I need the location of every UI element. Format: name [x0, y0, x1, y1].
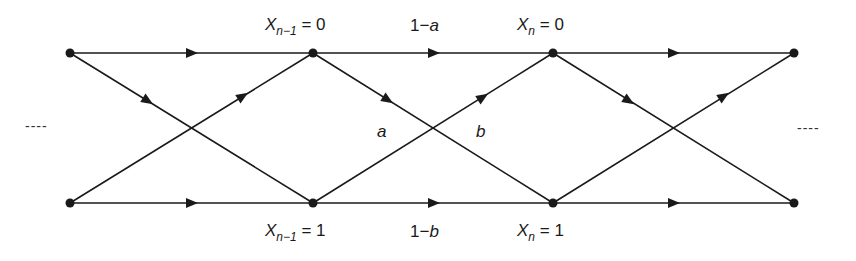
- arrow-icon: [140, 94, 155, 109]
- state-sub: n−1: [276, 24, 296, 38]
- node-top-2: [549, 49, 558, 58]
- state-eq: = 0: [297, 15, 326, 34]
- arrow-icon: [668, 198, 680, 208]
- state-label-prev-bottom: Xn−1 = 1: [265, 222, 326, 239]
- edge-label-var: b: [429, 222, 438, 241]
- arrow-icon: [475, 90, 490, 105]
- edge-label-var: a: [377, 122, 386, 141]
- continuation-left: ----: [25, 119, 48, 133]
- state-var: X: [517, 221, 528, 240]
- arrow-icon: [428, 48, 440, 58]
- edge-label-var: a: [429, 16, 438, 35]
- edge-label-prefix: 1−: [410, 16, 429, 35]
- node-top-0: [66, 49, 75, 58]
- node-top-3: [790, 49, 799, 58]
- edge-label-stay-top: 1−a: [410, 17, 439, 34]
- node-bottom-1: [309, 199, 318, 208]
- state-var: X: [517, 15, 528, 34]
- state-var: X: [265, 15, 276, 34]
- state-eq: = 1: [535, 221, 564, 240]
- edge-label-var: b: [476, 122, 485, 141]
- state-sub: n−1: [276, 230, 296, 244]
- state-var: X: [265, 221, 276, 240]
- arrow-icon: [428, 198, 440, 208]
- state-label-prev-top: Xn−1 = 0: [265, 16, 326, 33]
- edge-label-cross-down: a: [377, 123, 386, 140]
- state-eq: = 0: [535, 15, 564, 34]
- continuation-right: ----: [797, 121, 820, 135]
- state-label-curr-top: Xn = 0: [517, 16, 564, 33]
- node-top-1: [309, 49, 318, 58]
- node-bottom-2: [549, 199, 558, 208]
- node-bottom-0: [66, 199, 75, 208]
- arrow-icon: [186, 198, 198, 208]
- arrow-icon: [621, 94, 636, 109]
- arrow-icon: [235, 89, 250, 104]
- arrow-icon: [668, 48, 680, 58]
- state-eq: = 1: [297, 221, 326, 240]
- state-label-curr-bottom: Xn = 1: [517, 222, 564, 239]
- arrow-icon: [716, 89, 731, 104]
- arrow-icon: [186, 48, 198, 58]
- node-bottom-3: [790, 199, 799, 208]
- edge-label-stay-bottom: 1−b: [410, 223, 439, 240]
- edge-label-prefix: 1−: [410, 222, 429, 241]
- arrow-icon: [380, 93, 395, 108]
- edge-label-cross-up: b: [476, 123, 485, 140]
